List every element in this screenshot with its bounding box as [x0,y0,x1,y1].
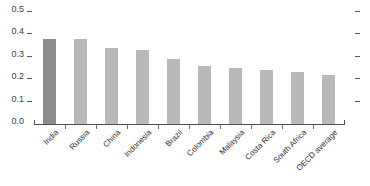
x-axis-separator-tick [313,125,314,129]
bar [74,39,87,124]
bar [229,68,242,124]
x-axis-label: Malaysia [217,128,246,157]
y-axis-tick-dash [27,33,32,34]
y-axis-right-tick-dash [355,78,360,79]
x-axis-separator-tick [65,125,66,129]
bar [43,39,56,124]
bar-chart: 0.50.40.30.20.10.0 IndiaRussiaChinaIndon… [0,0,370,186]
bar [136,50,149,124]
bar [322,75,335,124]
x-axis-label: Indonesia [122,128,153,159]
bar [291,72,304,124]
y-axis-right-tick-dash [355,101,360,102]
x-axis-label: Russia [67,128,91,152]
x-axis-separator-tick [127,125,128,129]
x-axis-right-cap [344,120,345,125]
x-axis-label: Colombia [185,128,215,158]
y-axis-right-tick-dash [355,33,360,34]
x-axis-label: Brazil [163,128,184,149]
y-axis-tick-label: 0.4 [11,27,24,36]
y-axis-tick-label: 0.1 [11,95,24,104]
y-axis-right-tick-dash [355,56,360,57]
x-axis-separator-tick [158,125,159,129]
x-axis-separator-tick [282,125,283,129]
y-axis-tick-dash [27,101,32,102]
bars-container [34,12,344,124]
bar [105,48,118,124]
bar [260,70,273,124]
y-axis-tick-label: 0.0 [11,117,24,126]
y-axis-tick-label: 0.5 [11,5,24,14]
y-axis-tick-dash [27,11,32,12]
bar [167,59,180,124]
x-axis-separator-tick [189,125,190,129]
x-axis-label: China [101,128,122,149]
y-axis-right-tick-dash [355,11,360,12]
bar [198,66,211,124]
y-axis-tick-label: 0.2 [11,72,24,81]
y-axis-tick-dash [27,78,32,79]
x-axis-separator-tick [220,125,221,129]
y-axis-tick-dash [27,56,32,57]
x-axis-separator-tick [96,125,97,129]
x-axis-label: India [41,128,60,147]
x-axis-separator-tick [251,125,252,129]
y-axis-tick-label: 0.3 [11,50,24,59]
